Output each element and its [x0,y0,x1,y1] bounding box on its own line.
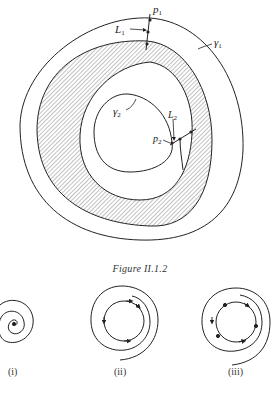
limit-cycle [216,302,256,342]
label-L2: L2 [168,110,177,122]
gamma2-curve [94,94,172,172]
trajectory-segment [180,139,183,170]
point-L1-b [145,42,148,45]
hatched-annulus [37,41,212,226]
equilibrium-point [223,303,226,306]
label-gamma2: γ2 [113,106,121,119]
equilibrium-point [216,334,219,337]
gamma2-pointer [126,99,136,110]
label-gamma1: γ1 [214,37,222,50]
subfigure-label-ii: (ii) [114,366,126,377]
subfigure-label-i: (i) [8,366,17,377]
label-L1: L1 [115,24,125,37]
point-p2 [170,141,173,144]
equilibrium-point [254,324,257,327]
equilibrium-point [12,322,15,325]
subfigure-ii-spiral [91,286,158,360]
L2-pointer-arrow [173,119,174,139]
label-p1: p1 [153,4,162,17]
point-L1-a [146,30,149,33]
point-p1 [148,18,151,21]
subfigure-label-iii: (iii) [228,366,243,377]
subfigure-i-spiral [0,300,33,342]
figure-canvas [0,0,280,394]
gamma1-pointer [198,44,212,49]
p2-pointer [163,140,170,143]
subfigure-iii-spiral [202,288,270,365]
figure-caption: Figure II.1.2 [0,263,280,274]
label-p2: p2 [153,134,162,146]
point-L2-b [189,130,192,133]
orbit-arrow [244,303,248,306]
limit-cycle [104,301,144,341]
L1-pointer-arrow [130,29,145,30]
